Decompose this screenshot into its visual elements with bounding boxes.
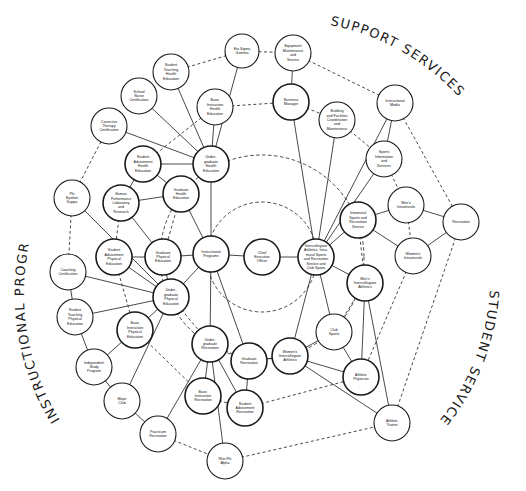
node-label: Instruction: [207, 103, 224, 107]
node-label: Recreation: [240, 361, 257, 365]
node-label: Health: [138, 164, 148, 168]
node-label: Laboratory: [112, 201, 129, 205]
node-gRec: GraduateRecreation: [231, 343, 267, 379]
node-label: Business: [284, 98, 299, 102]
node-label: Physical: [156, 255, 170, 259]
node-equip: EquipmentMaintenanceandService: [275, 35, 311, 71]
node-label: Human: [115, 192, 127, 196]
node-label: Coaching: [60, 268, 75, 272]
node-label: Student: [137, 155, 149, 159]
node-label: Intramurals: [397, 205, 415, 209]
node-label: Gamma: [236, 51, 249, 55]
node-label: and: [290, 53, 296, 57]
node-label: Maintenance: [283, 49, 304, 53]
node-label: Athletics, Intra-: [304, 248, 329, 252]
node-label: Athletics: [283, 358, 297, 362]
node-mIntra: Men'sIntramurals: [388, 187, 424, 223]
node-label: Eta Sigma: [234, 47, 251, 51]
node-nurse: SchoolNurseCertification: [121, 78, 157, 114]
node-label: Physical: [128, 330, 142, 334]
node-label: Recreation: [349, 220, 366, 224]
node-label: Club Sports: [307, 266, 326, 270]
node-club: ClubSports: [316, 314, 352, 350]
node-label: Building: [331, 109, 344, 113]
node-biHealth: BasicInstructionHealthEducation: [197, 89, 233, 125]
node-label: and Facilities: [327, 114, 348, 118]
node-biPE: BasicInstructionPhysicalEducation: [117, 312, 153, 348]
node-label: Basic: [131, 321, 140, 325]
node-label: Health: [166, 72, 176, 76]
node-label: and: [118, 205, 124, 209]
node-label: Media: [390, 103, 400, 107]
node-label: Officer: [257, 259, 268, 263]
node-label: Performance: [111, 197, 132, 201]
node-label: Men's: [360, 277, 370, 281]
node-ugHealth: Under-graduateHealthEducation: [193, 146, 229, 182]
node-label: Teaching: [68, 313, 82, 317]
node-label: Physical: [164, 297, 178, 301]
node-media: InstructionalMedia: [377, 85, 413, 121]
node-label: Program: [87, 369, 101, 373]
node-label: Education: [163, 302, 179, 306]
node-recreation: Recreation: [443, 204, 479, 240]
node-label: Intercollegiate: [354, 281, 376, 285]
node-label: Health: [176, 192, 186, 196]
node-sportsInfo: SportsInformationandServices: [366, 141, 402, 177]
connection-line: [291, 102, 316, 257]
node-wInter: Women'sIntercollegiateAthletics: [272, 338, 308, 374]
node-label: Chief: [258, 251, 266, 255]
node-label: Sports: [379, 150, 390, 154]
node-intramural: IntramuralSports andRecreationService: [340, 202, 376, 238]
node-label: Kappa: [67, 200, 77, 204]
node-label: and: [334, 122, 340, 126]
node-label: Advisement: [134, 160, 153, 164]
node-saRec: StudentAdvisementRecreation: [227, 390, 263, 426]
connection-line: [225, 423, 392, 461]
node-label: Physician: [353, 377, 368, 381]
node-label: Phi: [69, 192, 74, 196]
node-label: Education: [173, 196, 189, 200]
node-label: Recreation: [452, 220, 469, 224]
node-building: Buildingand FacilitiesCoordinationandMai…: [319, 102, 355, 138]
node-label: Major: [118, 397, 128, 401]
node-label: Education: [135, 169, 151, 173]
node-ugRec: Under-graduateRecreation: [192, 326, 228, 362]
node-label: Athletic: [355, 373, 367, 377]
node-label: Student: [239, 402, 251, 406]
node-label: Graduate: [242, 357, 257, 361]
node-label: Health: [210, 107, 220, 111]
node-label: Basic: [199, 390, 208, 394]
node-eta: Eta SigmaGamma: [225, 34, 259, 68]
node-label: Under-: [166, 288, 178, 292]
node-business: BusinessManager: [273, 84, 309, 120]
node-label: Under-: [205, 338, 217, 342]
node-label: Athletics: [358, 285, 372, 289]
node-label: School: [134, 90, 145, 94]
node-label: Advisement: [236, 406, 255, 410]
node-practicum: PracticumRecreation: [140, 416, 176, 452]
node-label: mural Sports: [306, 253, 327, 257]
node-label: Intramural: [350, 211, 366, 215]
diagram-canvas: Eta SigmaGammaEquipmentMaintenanceandSer…: [0, 0, 526, 491]
node-label: Club: [330, 328, 337, 332]
node-label: Women's: [406, 252, 421, 256]
node-indep: IndependentStudyProgram: [76, 349, 112, 385]
node-gPE: GraduatePhysicalEducation: [145, 239, 181, 275]
node-label: graduate: [203, 342, 217, 346]
node-label: Nurse: [134, 94, 144, 98]
node-label: Advisement: [105, 253, 124, 257]
node-label: Maintenance: [327, 127, 348, 131]
node-label: Sports: [329, 332, 340, 336]
node-label: Service: [287, 58, 299, 62]
node-biRec: BasicInstructionRecreation: [185, 378, 221, 414]
node-major: MajorClub: [104, 383, 140, 419]
node-label: Independent: [84, 361, 104, 365]
node-hpl: HumanPerformanceLaboratoryandResearch: [103, 185, 139, 221]
node-phi: PhiEpsilonKappa: [54, 180, 90, 216]
node-label: Recreation: [194, 398, 211, 402]
node-label: Programs: [203, 254, 219, 258]
node-label: Instructional: [201, 250, 221, 254]
node-label: Education: [207, 112, 223, 116]
node-label: and: [381, 159, 387, 163]
node-label: Coordination: [327, 118, 347, 122]
